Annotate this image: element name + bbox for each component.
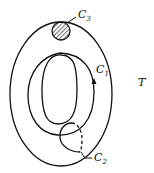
torus-diagram: C3 C1 C2 T [0,0,154,173]
cycle-c1 [28,53,94,135]
c2-label: C2 [94,151,107,166]
c3-label: C3 [78,8,91,23]
surface-label-t: T [138,76,147,89]
cycle-c2-front [60,123,80,152]
cycle-c3-disk [52,22,70,40]
c1-label: C1 [96,63,109,78]
torus-outer-boundary [10,22,112,166]
c3-leader-line [67,17,76,23]
torus-inner-hole [42,55,77,124]
